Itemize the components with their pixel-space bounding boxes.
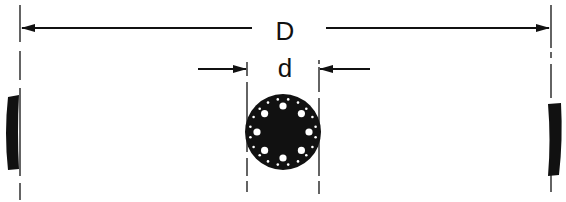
inner-diameter-label: d: [278, 55, 292, 81]
outer-diameter-label: D: [276, 18, 295, 44]
right-rim-segment: [548, 103, 562, 176]
perforated-disc: [245, 94, 321, 170]
left-rim-segment: [6, 95, 19, 170]
